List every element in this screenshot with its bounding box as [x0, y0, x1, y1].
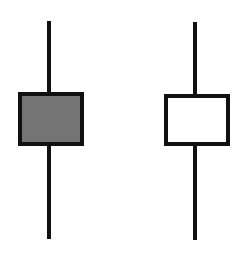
- candle-body: [164, 94, 230, 146]
- hollow-candlestick: [0, 0, 244, 258]
